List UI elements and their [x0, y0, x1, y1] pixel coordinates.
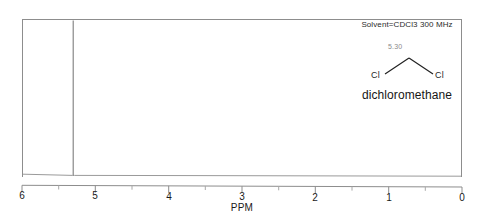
- tick-label-2: 2: [305, 192, 325, 203]
- spectrum-baseline-trace: [23, 174, 461, 176]
- nmr-spectrum-screenshot: 6 5 4 3 2 1 0 PPM Solvent=CDCl3 300 MHz …: [0, 0, 484, 221]
- atom-label-cl-right: Cl: [435, 70, 444, 80]
- tick-label-3: 3: [232, 191, 252, 202]
- atom-label-cl-left: Cl: [371, 70, 380, 80]
- tick-label-6: 6: [12, 190, 32, 201]
- spectrum-annotation-block: Solvent=CDCl3 300 MHz 5.30 Cl Cl dichlor…: [345, 20, 469, 29]
- tick-label-0: 0: [452, 192, 472, 203]
- tick-label-5: 5: [85, 190, 105, 201]
- solvent-note: Solvent=CDCl3 300 MHz: [345, 20, 469, 29]
- tick-label-1: 1: [379, 192, 399, 203]
- dichloromethane-structure: Cl Cl: [355, 52, 463, 82]
- chemical-shift-label: 5.30: [388, 43, 402, 50]
- axis-title-ppm: PPM: [222, 202, 262, 213]
- tick-label-4: 4: [159, 191, 179, 202]
- spectrum-plot-svg: [0, 0, 484, 221]
- compound-name-label: dichloromethane: [345, 88, 469, 102]
